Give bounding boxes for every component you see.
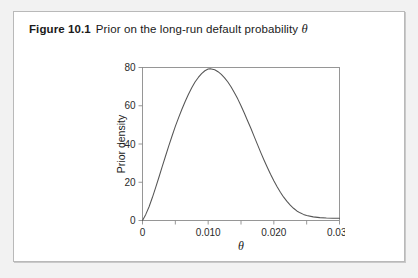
figure-caption-text: Prior on the long-run default probabilit… <box>96 23 298 35</box>
y-tick-label: 0 <box>130 215 136 226</box>
y-tick-label: 60 <box>124 100 136 111</box>
x-tick-label: 0.020 <box>261 227 286 238</box>
x-axis-ticks: 00.0100.0200.030 <box>140 221 345 238</box>
x-tick-label: 0.010 <box>196 227 221 238</box>
y-axis-ticks: 020406080 <box>124 62 142 226</box>
y-tick-label: 20 <box>124 177 136 188</box>
figure-caption: Figure 10.1Prior on the long-run default… <box>29 22 308 37</box>
x-tick-label: 0 <box>140 227 146 238</box>
plot-frame <box>143 68 340 221</box>
x-axis-title: θ <box>238 239 244 253</box>
figure-caption-label: Figure 10.1 <box>29 23 91 35</box>
prior-density-curve <box>143 69 340 221</box>
prior-density-line-chart: 020406080 00.0100.0200.030 Prior density… <box>115 45 345 255</box>
y-axis-title: Prior density <box>115 114 127 173</box>
chart-plot-area: 020406080 00.0100.0200.030 Prior density… <box>115 45 345 255</box>
figure-container: Figure 10.1Prior on the long-run default… <box>13 11 405 262</box>
figure-caption-symbol: θ <box>301 22 307 36</box>
y-tick-label: 80 <box>124 62 136 73</box>
x-tick-label: 0.030 <box>327 227 345 238</box>
